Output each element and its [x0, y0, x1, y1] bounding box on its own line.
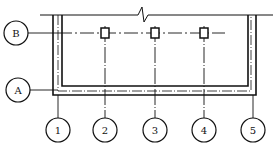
axis-bubble-4: 4	[192, 118, 216, 142]
top-boundary-with-break	[40, 7, 273, 22]
axis-label-1: 1	[55, 125, 61, 136]
wall-center-line	[58, 15, 251, 91]
axis-bubble-5: 5	[241, 118, 265, 142]
column-B4	[200, 28, 208, 38]
column-B3	[151, 28, 159, 38]
axis-label-3: 3	[152, 125, 158, 136]
axis-bubble-A: A	[6, 78, 30, 102]
column-B2	[101, 28, 109, 38]
axis-label-A: A	[13, 85, 22, 96]
axis-bubble-2: 2	[93, 118, 117, 142]
axis-label-B: B	[12, 28, 19, 39]
axis-label-4: 4	[201, 125, 207, 136]
wall-outer	[53, 15, 256, 95]
axis-bubble-3: 3	[143, 118, 167, 142]
axis-grid-diagram: B A 1 2 3 4 5	[0, 0, 273, 153]
axis-bubble-B: B	[4, 21, 28, 45]
axis-label-2: 2	[102, 125, 108, 136]
axis-bubble-1: 1	[46, 118, 70, 142]
axis-label-5: 5	[250, 125, 256, 136]
